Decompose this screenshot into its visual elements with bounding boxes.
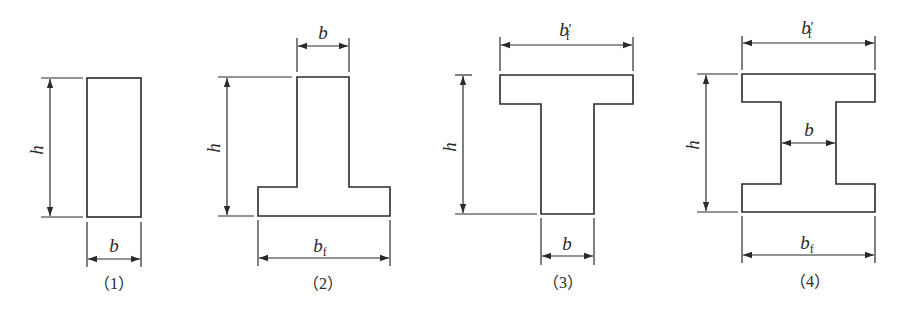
web-width-dimension: b [782, 119, 835, 143]
figure-1-rectangular-section: h b （1） [26, 78, 141, 292]
width-label: b [109, 235, 119, 256]
height-label: h [203, 143, 224, 153]
cross-section-diagram: h b （1） b h b [0, 0, 897, 313]
height-label: h [26, 145, 47, 155]
flange-width-label: bf [313, 235, 327, 259]
bottom-flange-width-dimension: bf [742, 216, 875, 263]
top-flange-width-dimension: b′f [742, 17, 875, 70]
top-flange-width-label: b′f [801, 17, 814, 41]
t-section-outline [500, 75, 633, 214]
height-dimension: h [439, 75, 537, 214]
inverted-t-outline [258, 77, 390, 216]
height-dimension: h [682, 74, 738, 212]
web-width-label: b [562, 233, 572, 254]
width-dimension: b [87, 222, 141, 267]
figure-caption: （2） [303, 275, 343, 292]
figure-2-inverted-t-section: b h bf （2） [203, 22, 390, 292]
top-flange-width-label: b′f [559, 19, 572, 43]
figure-3-t-section: b′f h b （3） [439, 19, 633, 291]
web-width-label: b [318, 22, 328, 43]
height-dimension: h [203, 77, 292, 216]
web-width-dimension: b [541, 218, 594, 265]
bottom-flange-width-label: bf [800, 232, 814, 256]
height-label: h [682, 140, 703, 150]
figure-caption: （1） [94, 275, 134, 292]
figure-4-i-section: b′f b h bf （4） [682, 17, 875, 290]
figure-caption: （3） [543, 274, 583, 291]
web-width-label: b [804, 119, 814, 140]
web-width-dimension: b [297, 22, 349, 72]
top-flange-width-dimension: b′f [500, 19, 633, 71]
rectangle-outline [87, 78, 141, 217]
height-label: h [439, 142, 460, 152]
height-dimension: h [26, 78, 83, 217]
figure-caption: （4） [790, 273, 830, 290]
flange-width-dimension: bf [258, 220, 390, 266]
